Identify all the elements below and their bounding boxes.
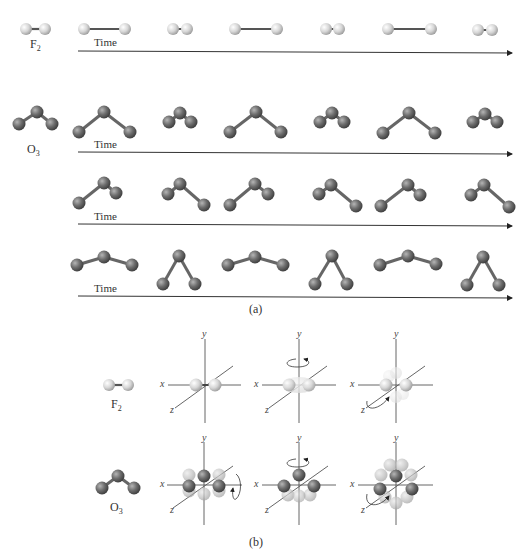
time-label-o3-symmetric: Time xyxy=(94,138,117,150)
axis-label-y: y xyxy=(394,328,398,339)
time-label-o3-bending: Time xyxy=(94,282,117,294)
axis-label-y: y xyxy=(297,432,301,443)
o3-rotation-y-axes xyxy=(262,442,336,525)
time-axis-arrow-o3-asymmetric xyxy=(78,224,512,226)
axis-label-z: z xyxy=(265,404,269,415)
axis-label-z: z xyxy=(361,504,365,515)
axis-label-x: x xyxy=(350,378,354,389)
f2-label-b-sub: 2 xyxy=(118,404,122,413)
axis-label-x: x xyxy=(160,478,164,489)
o3-rotation-x-axes xyxy=(167,442,242,525)
f2-label-text: F xyxy=(30,37,37,51)
f2-rotation-x-axes xyxy=(168,339,241,423)
o3-reference-molecule-b xyxy=(96,470,141,495)
axis-label-y: y xyxy=(297,328,301,339)
rotation-arrow-y-o3 xyxy=(287,459,309,467)
o3-label-sub: 3 xyxy=(36,149,40,158)
axis-label-x: x xyxy=(350,478,354,489)
o3-label-b: O3 xyxy=(110,500,123,516)
axis-label-z: z xyxy=(265,504,269,515)
f2-label-b: F2 xyxy=(111,397,122,413)
o3-bending-atoms xyxy=(71,250,506,292)
f2-stretch-series xyxy=(78,23,498,36)
axis-label-z: z xyxy=(361,404,365,415)
o3-label-a: O3 xyxy=(27,142,40,158)
axis-label-z: z xyxy=(170,404,174,415)
o3-rotation-z-axes xyxy=(358,442,433,525)
axis-label-y: y xyxy=(394,432,398,443)
f2-rotation-y-molecule xyxy=(283,377,316,393)
time-axis-arrow-o3-bending xyxy=(78,296,512,298)
f2-reference-molecule xyxy=(20,23,51,35)
axis-label-y: y xyxy=(202,432,206,443)
rotation-arrow-x-o3 xyxy=(233,474,241,499)
f2-label-a: F2 xyxy=(30,37,41,53)
time-axis-arrow-f2 xyxy=(78,51,512,53)
o3-symmetric-stretch-atoms xyxy=(73,106,504,140)
o3-label-text: O xyxy=(27,142,36,156)
time-label-o3-asymmetric: Time xyxy=(94,210,117,222)
axis-label-y: y xyxy=(202,328,206,339)
rotation-arrow-y-f2 xyxy=(287,359,309,367)
axis-label-z: z xyxy=(170,504,174,515)
axis-label-x: x xyxy=(254,378,258,389)
o3-label-b-sub: 3 xyxy=(119,507,123,516)
f2-reference-molecule-b xyxy=(103,379,134,391)
f2-label-b-text: F xyxy=(111,397,118,411)
axis-label-x: x xyxy=(254,478,258,489)
time-axis-arrow-o3-symmetric xyxy=(78,152,512,154)
molecular-motion-figure xyxy=(0,0,521,552)
caption-a: (a) xyxy=(249,302,262,317)
o3-label-b-text: O xyxy=(110,500,119,514)
o3-asymmetric-stretch-series xyxy=(79,183,509,207)
f2-rotation-z-axes xyxy=(358,339,433,423)
time-label-f2: Time xyxy=(94,36,117,48)
f2-rotation-x-molecule xyxy=(190,379,222,392)
f2-label-sub: 2 xyxy=(37,44,41,53)
o3-reference-molecule xyxy=(13,106,59,131)
rotation-arrow-z-f2 xyxy=(367,397,389,408)
caption-b: (b) xyxy=(249,535,263,550)
axis-label-x: x xyxy=(160,378,164,389)
o3-asymmetric-stretch-atoms xyxy=(73,177,516,214)
